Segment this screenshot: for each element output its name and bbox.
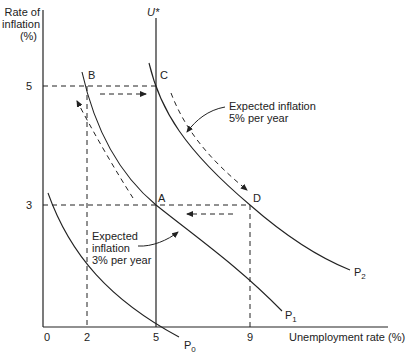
y-axis-label-line3: (%)	[0, 30, 40, 42]
p0-subscript: 0	[191, 345, 195, 354]
point-b-label: B	[88, 69, 95, 81]
annotation-3pct-line2: inflation	[92, 242, 151, 254]
ustar-label: U*	[147, 6, 159, 18]
pointer-5pct	[187, 107, 225, 132]
y-axis-label-line2: inflation	[0, 18, 40, 30]
x-tick-5: 5	[153, 331, 159, 343]
x-tick-0: 0	[44, 331, 50, 343]
point-d-label: D	[253, 192, 261, 204]
annotation-5pct-line2: 5% per year	[229, 112, 316, 124]
arrow-a-to-b	[77, 101, 133, 198]
y-tick-3: 3	[26, 199, 32, 211]
annotation-5pct-line1: Expected inflation	[229, 100, 316, 112]
x-tick-9: 9	[247, 331, 253, 343]
point-c-label: C	[160, 69, 168, 81]
annotation-3pct-line3: 3% per year	[92, 254, 151, 266]
annotation-expected-5pct: Expected inflation 5% per year	[229, 100, 316, 124]
annotation-expected-3pct: Expected inflation 3% per year	[92, 230, 151, 266]
y-tick-5: 5	[26, 80, 32, 92]
point-a-label: A	[158, 192, 165, 204]
curve-p2-label: P2	[354, 266, 366, 283]
y-axis-label-line1: Rate of	[0, 6, 40, 18]
annotation-3pct-line1: Expected	[92, 230, 151, 242]
curve-p1-label: P1	[285, 309, 297, 326]
curve-p0-label: P0	[184, 339, 196, 356]
x-axis-label: Unemployment rate (%)	[289, 331, 405, 343]
x-tick-2: 2	[84, 331, 90, 343]
y-axis-label: Rate of inflation (%)	[0, 6, 40, 42]
curve-p2	[149, 63, 350, 270]
p1-subscript: 1	[292, 315, 296, 324]
p2-subscript: 2	[361, 272, 365, 281]
phillips-curve-diagram	[0, 0, 406, 364]
